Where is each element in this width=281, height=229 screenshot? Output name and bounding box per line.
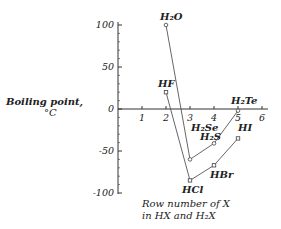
y-tick-50: 50	[102, 61, 114, 72]
label-h2se: H₂Se	[190, 122, 218, 133]
x-axis	[118, 106, 268, 109]
y-tick-neg50: -50	[99, 145, 114, 156]
y-tick-neg100: -100	[93, 187, 114, 198]
boiling-point-chart: 100 50 0 -50 -100 1 2 3 4 5 6 Boiling po…	[0, 0, 281, 229]
label-h2te: H₂Te	[230, 95, 257, 106]
y-tick-0: 0	[108, 103, 114, 114]
y-axis-unit: °C	[44, 107, 57, 118]
y-tick-100: 100	[96, 19, 114, 30]
x-axis-label-line1: Row number of X	[141, 198, 231, 209]
label-hf: HF	[157, 78, 175, 89]
label-hcl: HCl	[181, 184, 203, 195]
label-hi: HI	[237, 122, 252, 133]
x-tick-1: 1	[139, 112, 145, 123]
label-h2o: H₂O	[159, 11, 183, 22]
label-hbr: HBr	[209, 169, 234, 180]
y-axis	[118, 22, 122, 194]
x-axis-label-line2: in HX and H₂X	[142, 210, 217, 221]
x-tick-2: 2	[162, 112, 169, 123]
x-tick-6: 6	[259, 112, 265, 123]
